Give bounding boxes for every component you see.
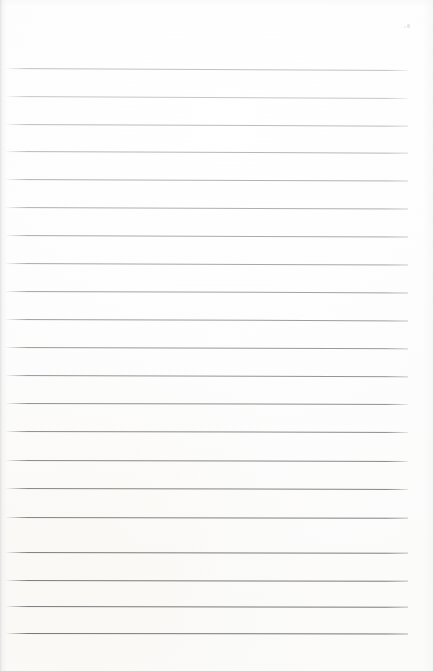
ruled-line [6, 96, 408, 99]
ruled-line [6, 124, 408, 127]
scan-speck [404, 26, 406, 28]
scanned-page [0, 0, 433, 671]
ruled-line [6, 606, 408, 608]
ruled-lines-group [0, 0, 433, 671]
ruled-line [6, 552, 408, 554]
ruled-line [6, 460, 408, 462]
ruled-line [6, 403, 408, 405]
ruled-line [6, 431, 408, 433]
ruled-line [6, 319, 408, 321]
ruled-line [6, 291, 408, 293]
ruled-line [6, 517, 408, 519]
ruled-line [6, 633, 408, 635]
ruled-line [6, 488, 408, 490]
ruled-line [6, 151, 408, 154]
scan-speck [407, 24, 410, 28]
ruled-line [6, 580, 408, 582]
ruled-line [6, 179, 408, 182]
ruled-line [6, 68, 408, 71]
ruled-line [6, 207, 408, 210]
ruled-line [6, 263, 408, 266]
ruled-line [6, 347, 408, 349]
ruled-line [6, 375, 408, 377]
ruled-line [6, 235, 408, 238]
